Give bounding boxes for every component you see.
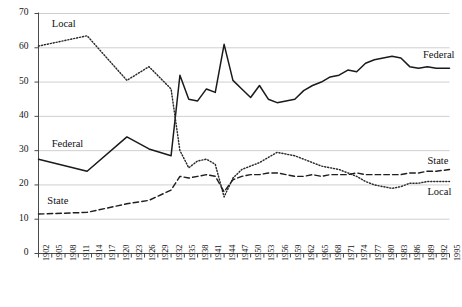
x-tick-label: 1929 xyxy=(161,244,170,260)
y-tick-label: 70 xyxy=(5,7,29,17)
y-axis-ticks xyxy=(35,14,39,254)
x-tick-label: 1935 xyxy=(188,244,197,260)
x-tick-label: 1911 xyxy=(82,244,91,260)
x-tick-label: 1974 xyxy=(360,244,369,260)
x-tick-label: 1902 xyxy=(42,244,51,260)
x-tick-label: 1968 xyxy=(334,244,343,260)
series-label-federal-mid-left: Federal xyxy=(52,138,84,149)
x-tick-label: 1980 xyxy=(387,244,396,260)
series-label-state-lower-right: State xyxy=(427,155,448,166)
series-lines xyxy=(39,36,450,214)
y-tick-label: 10 xyxy=(5,213,29,223)
x-tick-label: 1995 xyxy=(453,244,462,260)
x-tick-label: 1983 xyxy=(400,244,409,260)
x-tick-label: 1920 xyxy=(122,244,131,260)
series-line-state xyxy=(39,170,450,215)
y-tick-label: 50 xyxy=(5,76,29,86)
x-tick-label: 1917 xyxy=(108,244,117,260)
x-tick-label: 1962 xyxy=(307,244,316,260)
x-tick-label: 1992 xyxy=(440,244,449,260)
x-tick-label: 1971 xyxy=(347,244,356,260)
x-tick-label: 1956 xyxy=(281,244,290,260)
y-tick-label: 60 xyxy=(5,41,29,51)
x-tick-label: 1926 xyxy=(148,244,157,260)
x-tick-label: 1938 xyxy=(201,244,210,260)
x-tick-label: 1932 xyxy=(175,244,184,260)
x-tick-label: 1944 xyxy=(228,244,237,260)
x-tick-label: 1905 xyxy=(55,244,64,260)
x-tick-label: 1965 xyxy=(321,244,330,260)
x-tick-label: 1950 xyxy=(254,244,263,260)
series-label-local-top-left: Local xyxy=(52,18,76,29)
x-tick-label: 1947 xyxy=(241,244,250,260)
gridlines xyxy=(39,14,450,220)
x-tick-label: 1986 xyxy=(413,244,422,260)
x-tick-label: 1908 xyxy=(69,244,78,260)
y-tick-label: 40 xyxy=(5,110,29,120)
y-tick-label: 30 xyxy=(5,144,29,154)
y-tick-label: 0 xyxy=(5,247,29,257)
x-tick-label: 1941 xyxy=(214,244,223,260)
y-tick-label: 20 xyxy=(5,178,29,188)
series-label-local-lower-right: Local xyxy=(427,186,451,197)
x-tick-label: 1923 xyxy=(135,244,144,260)
series-line-federal xyxy=(39,44,450,171)
x-tick-label: 1977 xyxy=(374,244,383,260)
series-label-federal-top-right: Federal xyxy=(423,49,455,60)
x-tick-label: 1959 xyxy=(294,244,303,260)
series-label-state-lower-left: State xyxy=(47,195,68,206)
x-tick-label: 1953 xyxy=(267,244,276,260)
x-tick-label: 1914 xyxy=(95,244,104,260)
x-tick-label: 1989 xyxy=(427,244,436,260)
